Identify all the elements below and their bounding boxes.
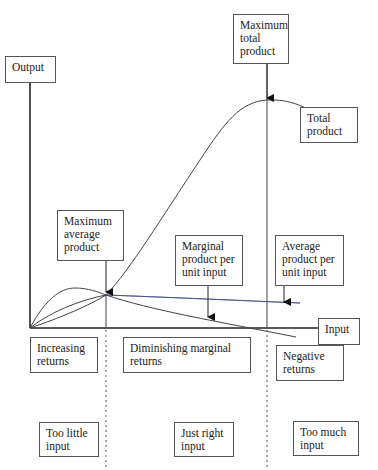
label-line: Maximum <box>64 215 117 228</box>
label-line: product <box>307 125 351 138</box>
total-product-label: Total product <box>300 107 358 143</box>
average-product-highlight <box>106 295 300 303</box>
max-average-product-label: Maximum average product <box>57 210 124 261</box>
max-total-product-label: Maximum total product <box>233 14 289 64</box>
average-product-label: Average product per unit input <box>275 235 344 286</box>
too-much-input-label: Too much input <box>293 421 359 456</box>
label-line: input <box>300 439 352 452</box>
label-line: product per <box>282 253 337 266</box>
label-line: product <box>240 45 282 58</box>
label-line: Marginal <box>182 240 236 253</box>
label-line: product per <box>182 253 236 266</box>
label-line: Average <box>282 240 337 253</box>
label-line: Increasing <box>37 342 91 355</box>
average-product-curve <box>30 295 300 328</box>
label-line: average <box>64 228 117 241</box>
label-line: returns <box>283 363 337 376</box>
output-axis-label: Output <box>5 56 56 83</box>
just-right-input-label: Just right input <box>174 422 234 457</box>
label-line: Total <box>307 112 351 125</box>
label-line: Too little <box>46 427 92 440</box>
marginal-product-curve <box>30 288 296 337</box>
negative-returns-label: Negative returns <box>276 345 344 381</box>
input-axis-label: Input <box>318 318 360 345</box>
label-line: input <box>46 440 92 453</box>
label-line: unit input <box>282 266 337 279</box>
label-line: product <box>64 241 117 254</box>
label-line: Negative <box>283 350 337 363</box>
marginal-product-label: Marginal product per unit input <box>175 235 243 286</box>
increasing-returns-label: Increasing returns <box>30 337 98 373</box>
output-label-text: Output <box>12 61 49 74</box>
label-line: returns <box>37 355 91 368</box>
label-line: Maximum <box>240 19 282 32</box>
input-label-text: Input <box>325 323 353 336</box>
label-line: Diminishing marginal <box>130 342 244 355</box>
too-little-input-label: Too little input <box>39 422 99 457</box>
diminishing-returns-label: Diminishing marginal returns <box>123 337 251 373</box>
label-line: unit input <box>182 266 236 279</box>
label-line: Just right <box>181 427 227 440</box>
label-line: total <box>240 32 282 45</box>
label-line: Too much <box>300 426 352 439</box>
label-line: returns <box>130 355 244 368</box>
label-line: input <box>181 440 227 453</box>
